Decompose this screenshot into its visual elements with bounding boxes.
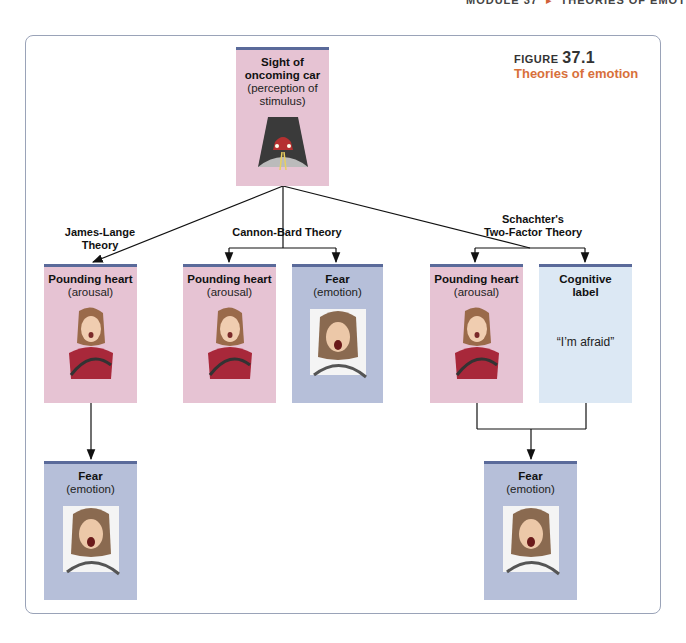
arousal-subtitle: (arousal) xyxy=(183,286,276,299)
james-lange-arousal-box: Pounding heart (arousal) xyxy=(44,264,137,403)
arousal-subtitle: (arousal) xyxy=(430,286,523,299)
startled-driver-icon xyxy=(200,303,260,383)
fear-title: Fear xyxy=(44,470,137,483)
screaming-driver-icon xyxy=(499,500,563,580)
arousal-title: Pounding heart xyxy=(44,273,137,286)
fear-title: Fear xyxy=(484,470,577,483)
theory-label-schachter: Schachter'sTwo-Factor Theory xyxy=(478,213,588,239)
startled-driver-icon xyxy=(61,303,121,383)
fear-subtitle: (emotion) xyxy=(292,286,383,299)
stimulus-box: Sight of oncoming car (perception of sti… xyxy=(236,47,329,186)
arousal-title: Pounding heart xyxy=(183,273,276,286)
fear-subtitle: (emotion) xyxy=(484,483,577,496)
fear-title: Fear xyxy=(292,273,383,286)
cannon-bard-arousal-box: Pounding heart (arousal) xyxy=(183,264,276,403)
arousal-title: Pounding heart xyxy=(430,273,523,286)
oncoming-car-icon xyxy=(253,112,313,172)
stimulus-title: Sight of oncoming car xyxy=(236,56,329,82)
cognitive-label-box: Cognitivelabel “I’m afraid” xyxy=(539,264,632,403)
screaming-driver-icon xyxy=(306,303,370,383)
cognitive-quote: “I’m afraid” xyxy=(539,335,632,349)
theory-label-james-lange: James-Lange Theory xyxy=(45,226,155,252)
schachter-fear-box: Fear (emotion) xyxy=(484,461,577,600)
james-lange-fear-box: Fear (emotion) xyxy=(44,461,137,600)
schachter-arousal-box: Pounding heart (arousal) xyxy=(430,264,523,403)
theory-label-cannon-bard: Cannon-Bard Theory xyxy=(232,226,342,239)
cognitive-title: Cognitivelabel xyxy=(539,273,632,299)
screaming-driver-icon xyxy=(59,500,123,580)
cannon-bard-fear-box: Fear (emotion) xyxy=(292,264,383,403)
stimulus-subtitle: (perception of stimulus) xyxy=(236,82,329,108)
arousal-subtitle: (arousal) xyxy=(44,286,137,299)
startled-driver-icon xyxy=(447,303,507,383)
fear-subtitle: (emotion) xyxy=(44,483,137,496)
